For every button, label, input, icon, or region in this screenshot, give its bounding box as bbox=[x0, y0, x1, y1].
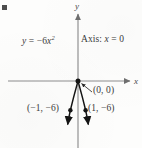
equation-exponent: 2 bbox=[51, 34, 54, 41]
y-axis-name-label: y bbox=[75, 1, 79, 11]
axis-of-symmetry-label: Axis: x = 0 bbox=[81, 35, 124, 45]
right-point-label: (1, −6) bbox=[88, 104, 115, 114]
graph-canvas bbox=[0, 0, 142, 148]
origin-leader-line bbox=[82, 84, 93, 93]
point-minus1-minus6 bbox=[68, 108, 72, 112]
left-point-label: (−1, −6) bbox=[27, 104, 59, 114]
parabola-figure: y = −6x2 Axis: x = 0 (0, 0) (−1, −6) (1,… bbox=[0, 0, 142, 148]
origin-point-label: (0, 0) bbox=[93, 86, 114, 96]
parabola-curve-left bbox=[68, 81, 78, 124]
equation-operator: = −6 bbox=[26, 36, 47, 46]
vertex-point bbox=[76, 79, 81, 84]
axis-of-symmetry-value: = 0 bbox=[109, 34, 124, 44]
x-axis-name-label: x bbox=[134, 76, 138, 86]
axis-of-symmetry-prefix: Axis: bbox=[81, 34, 105, 44]
equation-label: y = −6x2 bbox=[22, 35, 55, 47]
